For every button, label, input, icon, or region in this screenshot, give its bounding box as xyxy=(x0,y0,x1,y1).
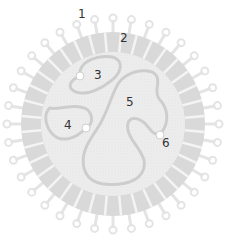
label-4: 4 xyxy=(64,119,72,131)
virus-diagram: 1 2 3 4 5 6 xyxy=(0,0,225,236)
core-matrix xyxy=(41,52,185,196)
label-1: 1 xyxy=(78,8,86,20)
polymerase-4 xyxy=(82,124,90,132)
polymerase-3 xyxy=(76,72,84,80)
label-5: 5 xyxy=(126,96,134,108)
label-6: 6 xyxy=(162,137,170,149)
label-3: 3 xyxy=(94,69,102,81)
label-2: 2 xyxy=(120,32,128,44)
virus-illustration xyxy=(0,0,225,236)
